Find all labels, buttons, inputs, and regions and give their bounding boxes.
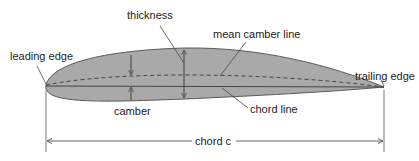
camber-label: camber (114, 105, 151, 117)
trailing-edge-label: trailing edge (355, 70, 415, 82)
mean-camber-line-label: mean camber line (213, 28, 300, 40)
airfoil-diagram: thickness mean camber line leading edge … (0, 0, 419, 161)
leading-edge-label: leading edge (10, 50, 73, 62)
thickness-label: thickness (127, 9, 173, 21)
chord-label: chord c (195, 135, 232, 147)
leading-edge-leader (37, 66, 46, 84)
chord-line-label: chord line (250, 103, 298, 115)
airfoil-shape (46, 48, 384, 101)
